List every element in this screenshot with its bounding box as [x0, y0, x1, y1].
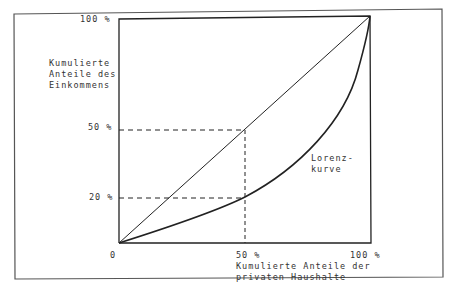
x-tick-100: 100 %	[350, 250, 381, 261]
curve-label-line2: kurve	[311, 164, 342, 175]
curve-label-line1: Lorenz-	[311, 153, 354, 164]
lorenz-chart	[0, 0, 454, 295]
y-tick-100: 100 %	[80, 14, 111, 25]
x-axis-label-line1: Kumulierte Anteile der	[236, 261, 371, 272]
x-tick-50: 50 %	[236, 250, 260, 261]
y-axis-label-line1: Kumulierte	[49, 58, 110, 69]
y-axis-label-line3: Einkommens	[49, 80, 110, 91]
y-axis-label-line2: Anteile des	[49, 69, 116, 80]
x-axis-label-line2: privaten Haushalte	[236, 272, 346, 283]
y-tick-20: 20 %	[89, 192, 113, 203]
origin-tick: 0	[110, 250, 116, 261]
y-tick-50: 50 %	[88, 122, 112, 133]
